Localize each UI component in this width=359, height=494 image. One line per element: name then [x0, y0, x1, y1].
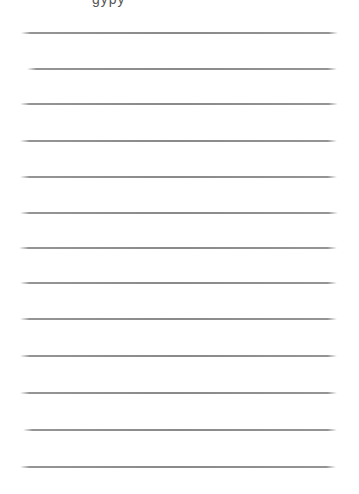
ruled-line [23, 429, 337, 431]
ruled-line [20, 140, 337, 142]
ruled-line [20, 318, 337, 320]
ruled-line [20, 103, 338, 105]
ruled-line [27, 68, 337, 70]
ruled-line [21, 32, 338, 34]
cut-off-heading-text: gypy [92, 0, 126, 7]
ruled-line [20, 355, 337, 357]
ruled-line [20, 392, 337, 394]
ruled-line [20, 176, 337, 178]
ruled-line [20, 212, 338, 214]
ruled-line [20, 282, 337, 284]
ruled-line [19, 247, 337, 249]
ruled-line [20, 466, 336, 468]
